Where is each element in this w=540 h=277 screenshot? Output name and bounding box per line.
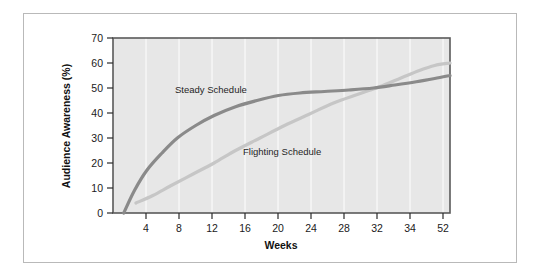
y-tick-label: 60 (91, 57, 103, 69)
x-tick-label: 16 (239, 222, 251, 234)
line-chart: 0 10 20 30 40 50 60 70 Audience Awarenes… (0, 0, 540, 277)
series-label-steady-schedule: Steady Schedule (175, 84, 247, 95)
x-tick-label: 20 (272, 222, 284, 234)
x-tick-label: 32 (371, 222, 383, 234)
x-tick-label: 4 (143, 222, 149, 234)
x-axis-ticks (146, 213, 443, 219)
y-tick-label: 40 (91, 107, 103, 119)
y-tick-label: 0 (97, 207, 103, 219)
chart-figure: 0 10 20 30 40 50 60 70 Audience Awarenes… (0, 0, 540, 277)
y-tick-label: 10 (91, 182, 103, 194)
y-axis-title: Audience Awareness (%) (60, 64, 72, 188)
x-tick-label: 34 (404, 222, 416, 234)
series-label-flighting-schedule: Flighting Schedule (243, 146, 321, 157)
x-axis-title: Weeks (264, 239, 297, 251)
x-tick-label: 24 (305, 222, 317, 234)
y-tick-label: 30 (91, 132, 103, 144)
x-tick-label: 52 (437, 222, 449, 234)
x-tick-label: 8 (176, 222, 182, 234)
y-tick-label: 70 (91, 32, 103, 44)
x-axis-tick-labels: 4 8 12 16 20 24 28 32 34 52 (143, 222, 449, 234)
x-tick-label: 28 (338, 222, 350, 234)
x-tick-label: 12 (206, 222, 218, 234)
y-tick-label: 50 (91, 82, 103, 94)
y-tick-label: 20 (91, 157, 103, 169)
y-axis-tick-labels: 0 10 20 30 40 50 60 70 (91, 32, 103, 219)
y-axis-ticks (107, 38, 113, 213)
